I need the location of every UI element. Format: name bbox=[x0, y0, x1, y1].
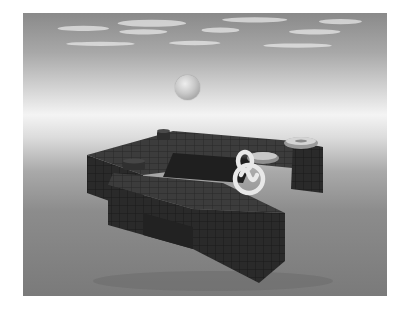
game-viewport[interactable] bbox=[23, 13, 387, 296]
block-structure bbox=[23, 13, 387, 296]
